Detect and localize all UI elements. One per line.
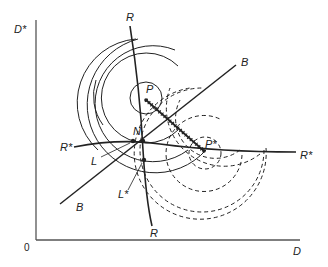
point-P-star-label: P*: [205, 139, 217, 150]
diagram-canvas: [0, 0, 328, 267]
point-P-label: P: [146, 84, 153, 95]
point-P: [144, 98, 148, 102]
point-L-label: L: [91, 156, 97, 167]
curve-R-star-label-right: R*: [300, 150, 312, 161]
point-L-star-label: L*: [118, 189, 128, 200]
indifference-arc-outer: [87, 39, 206, 173]
line-B-label-top: B: [241, 57, 248, 68]
y-axis-label: D*: [14, 24, 26, 35]
point-L-star: [142, 158, 146, 162]
indifference-arc-4: [77, 39, 136, 150]
point-N-label: N: [133, 126, 141, 137]
x-axis-label: D: [293, 246, 301, 257]
curve-R-star-label-left: R*: [60, 142, 72, 153]
point-L: [131, 139, 135, 143]
curve-R-label-bottom: R: [150, 228, 158, 239]
origin-label: 0: [24, 243, 30, 253]
reaction-curve-R-star: [74, 142, 296, 152]
line-B-label-bottom: B: [76, 202, 83, 213]
curve-R-label-top: R: [126, 12, 134, 23]
point-N: [141, 139, 145, 143]
